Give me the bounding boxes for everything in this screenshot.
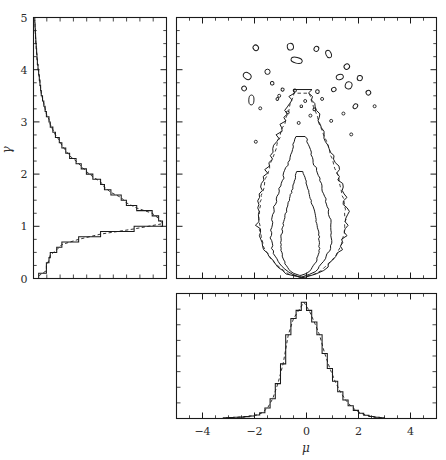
mu-tick-label: 2	[355, 425, 362, 438]
corner-plot-figure: 012345 γ −4−2024 μ	[0, 0, 446, 460]
gamma-tick-label: 2	[21, 168, 28, 181]
gamma-tick-label: 3	[21, 116, 28, 129]
gamma-axis-label: γ	[0, 146, 14, 154]
mu-tick-label: 4	[407, 425, 414, 438]
mu-tick-label: −2	[246, 425, 262, 438]
gamma-tick-label: 0	[21, 273, 28, 286]
figure-canvas: 012345 γ −4−2024 μ	[0, 0, 446, 460]
mu-tick-label: −4	[194, 425, 210, 438]
figure-background	[0, 0, 446, 460]
gamma-tick-label: 1	[21, 220, 28, 233]
mu-tick-label: 0	[303, 425, 310, 438]
mu-axis-label: μ	[302, 441, 310, 455]
gamma-tick-label: 5	[21, 12, 28, 25]
gamma-tick-label: 4	[21, 64, 28, 77]
